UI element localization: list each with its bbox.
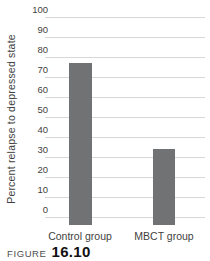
y-tick-label-70: 70 xyxy=(0,64,48,76)
bar-control-group xyxy=(69,63,92,225)
y-tick-label-10: 10 xyxy=(0,184,48,196)
y-tick-label-100: 100 xyxy=(0,4,48,16)
bar-mbct-group xyxy=(153,149,175,225)
figure-caption: FIGURE 16.10 xyxy=(7,243,91,260)
figure-caption-label: FIGURE xyxy=(7,248,47,259)
y-tick-label-40: 40 xyxy=(0,124,48,136)
figure-caption-number: 16.10 xyxy=(52,243,91,260)
gridline-y-100 xyxy=(45,17,205,18)
gridline-y-80 xyxy=(45,57,205,58)
y-tick-label-90: 90 xyxy=(0,24,48,36)
y-tick-label-20: 20 xyxy=(0,164,48,176)
figure-16-10: Percent relapse to depressed state 10090… xyxy=(0,0,210,261)
y-tick-label-80: 80 xyxy=(0,44,48,56)
y-tick-label-60: 60 xyxy=(0,84,48,96)
y-tick-label-30: 30 xyxy=(0,144,48,156)
y-tick-label-0: 0 xyxy=(0,204,48,216)
x-category-label-mbct-group: MBCT group xyxy=(114,230,210,243)
y-tick-label-50: 50 xyxy=(0,104,48,116)
gridline-y-90 xyxy=(45,37,205,38)
